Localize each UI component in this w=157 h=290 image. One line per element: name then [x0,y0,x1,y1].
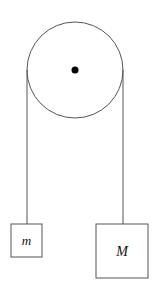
atwood-diagram: m M [0,0,157,290]
large-mass-block: M [96,224,148,278]
small-mass-block: m [11,224,42,257]
large-mass-label: M [115,244,129,259]
small-mass-label: m [22,233,31,248]
pulley-axle [72,67,79,74]
